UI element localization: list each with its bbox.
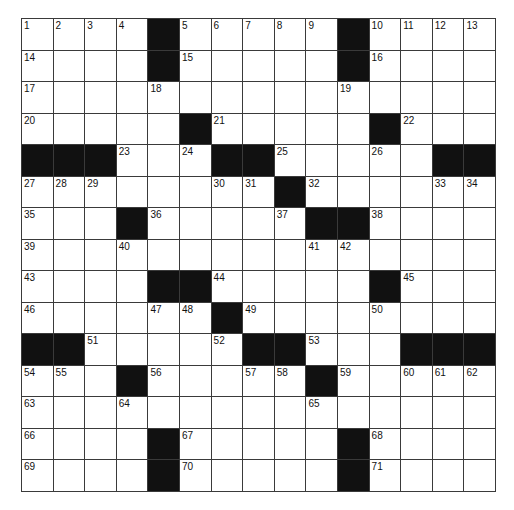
grid-cell[interactable] bbox=[464, 51, 495, 82]
grid-cell[interactable]: 68 bbox=[370, 429, 401, 460]
grid-cell[interactable] bbox=[338, 114, 369, 145]
grid-cell[interactable] bbox=[212, 460, 243, 491]
grid-cell[interactable] bbox=[370, 397, 401, 428]
grid-cell[interactable] bbox=[212, 397, 243, 428]
grid-cell[interactable]: 59 bbox=[338, 366, 369, 397]
grid-cell[interactable]: 70 bbox=[180, 460, 211, 491]
grid-cell[interactable] bbox=[338, 177, 369, 208]
grid-cell[interactable] bbox=[275, 82, 306, 113]
grid-cell[interactable] bbox=[117, 429, 148, 460]
grid-cell[interactable]: 48 bbox=[180, 303, 211, 334]
grid-cell[interactable] bbox=[212, 82, 243, 113]
grid-cell[interactable] bbox=[54, 460, 85, 491]
grid-cell[interactable]: 32 bbox=[306, 177, 337, 208]
grid-cell[interactable] bbox=[85, 240, 116, 271]
grid-cell[interactable] bbox=[370, 240, 401, 271]
grid-cell[interactable] bbox=[180, 208, 211, 239]
grid-cell[interactable]: 42 bbox=[338, 240, 369, 271]
grid-cell[interactable]: 55 bbox=[54, 366, 85, 397]
grid-cell[interactable] bbox=[243, 397, 274, 428]
grid-cell[interactable]: 21 bbox=[212, 114, 243, 145]
grid-cell[interactable]: 51 bbox=[85, 334, 116, 365]
grid-cell[interactable] bbox=[243, 51, 274, 82]
grid-cell[interactable] bbox=[370, 334, 401, 365]
grid-cell[interactable] bbox=[433, 208, 464, 239]
grid-cell[interactable] bbox=[85, 82, 116, 113]
grid-cell[interactable]: 64 bbox=[117, 397, 148, 428]
grid-cell[interactable]: 26 bbox=[370, 145, 401, 176]
grid-cell[interactable] bbox=[306, 429, 337, 460]
grid-cell[interactable]: 52 bbox=[212, 334, 243, 365]
grid-cell[interactable]: 71 bbox=[370, 460, 401, 491]
grid-cell[interactable] bbox=[117, 114, 148, 145]
grid-cell[interactable]: 11 bbox=[401, 19, 432, 50]
grid-cell[interactable] bbox=[370, 82, 401, 113]
grid-cell[interactable] bbox=[85, 429, 116, 460]
grid-cell[interactable]: 37 bbox=[275, 208, 306, 239]
grid-cell[interactable] bbox=[401, 208, 432, 239]
grid-cell[interactable] bbox=[148, 334, 179, 365]
grid-cell[interactable] bbox=[433, 51, 464, 82]
grid-cell[interactable] bbox=[148, 240, 179, 271]
grid-cell[interactable]: 63 bbox=[22, 397, 53, 428]
grid-cell[interactable]: 38 bbox=[370, 208, 401, 239]
grid-cell[interactable] bbox=[212, 51, 243, 82]
grid-cell[interactable] bbox=[338, 271, 369, 302]
grid-cell[interactable] bbox=[401, 145, 432, 176]
grid-cell[interactable] bbox=[306, 114, 337, 145]
grid-cell[interactable]: 50 bbox=[370, 303, 401, 334]
grid-cell[interactable] bbox=[243, 460, 274, 491]
grid-cell[interactable]: 36 bbox=[148, 208, 179, 239]
grid-cell[interactable] bbox=[275, 397, 306, 428]
grid-cell[interactable]: 39 bbox=[22, 240, 53, 271]
grid-cell[interactable]: 31 bbox=[243, 177, 274, 208]
grid-cell[interactable] bbox=[401, 82, 432, 113]
grid-cell[interactable] bbox=[464, 460, 495, 491]
grid-cell[interactable] bbox=[54, 114, 85, 145]
grid-cell[interactable] bbox=[54, 240, 85, 271]
grid-cell[interactable] bbox=[306, 145, 337, 176]
grid-cell[interactable]: 19 bbox=[338, 82, 369, 113]
grid-cell[interactable]: 1 bbox=[22, 19, 53, 50]
grid-cell[interactable] bbox=[401, 51, 432, 82]
grid-cell[interactable] bbox=[117, 51, 148, 82]
grid-cell[interactable] bbox=[212, 240, 243, 271]
grid-cell[interactable]: 67 bbox=[180, 429, 211, 460]
grid-cell[interactable] bbox=[148, 397, 179, 428]
grid-cell[interactable] bbox=[212, 208, 243, 239]
grid-cell[interactable]: 25 bbox=[275, 145, 306, 176]
grid-cell[interactable]: 24 bbox=[180, 145, 211, 176]
grid-cell[interactable] bbox=[117, 82, 148, 113]
grid-cell[interactable] bbox=[306, 82, 337, 113]
grid-cell[interactable] bbox=[148, 177, 179, 208]
grid-cell[interactable]: 2 bbox=[54, 19, 85, 50]
grid-cell[interactable] bbox=[54, 303, 85, 334]
grid-cell[interactable]: 43 bbox=[22, 271, 53, 302]
grid-cell[interactable]: 29 bbox=[85, 177, 116, 208]
grid-cell[interactable] bbox=[85, 271, 116, 302]
grid-cell[interactable] bbox=[85, 51, 116, 82]
grid-cell[interactable]: 20 bbox=[22, 114, 53, 145]
grid-cell[interactable] bbox=[54, 397, 85, 428]
grid-cell[interactable] bbox=[433, 240, 464, 271]
grid-cell[interactable]: 28 bbox=[54, 177, 85, 208]
grid-cell[interactable] bbox=[85, 208, 116, 239]
grid-cell[interactable]: 57 bbox=[243, 366, 274, 397]
grid-cell[interactable] bbox=[370, 177, 401, 208]
grid-cell[interactable]: 14 bbox=[22, 51, 53, 82]
grid-cell[interactable] bbox=[85, 397, 116, 428]
grid-cell[interactable] bbox=[401, 303, 432, 334]
grid-cell[interactable] bbox=[275, 51, 306, 82]
grid-cell[interactable]: 4 bbox=[117, 19, 148, 50]
grid-cell[interactable] bbox=[117, 334, 148, 365]
grid-cell[interactable] bbox=[117, 303, 148, 334]
grid-cell[interactable] bbox=[275, 303, 306, 334]
grid-cell[interactable] bbox=[117, 271, 148, 302]
grid-cell[interactable] bbox=[85, 366, 116, 397]
grid-cell[interactable] bbox=[85, 303, 116, 334]
grid-cell[interactable] bbox=[180, 177, 211, 208]
grid-cell[interactable] bbox=[275, 271, 306, 302]
grid-cell[interactable]: 6 bbox=[212, 19, 243, 50]
grid-cell[interactable] bbox=[180, 334, 211, 365]
grid-cell[interactable]: 65 bbox=[306, 397, 337, 428]
